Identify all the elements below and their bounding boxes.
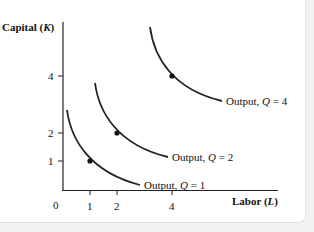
isoquant-q4 bbox=[150, 27, 222, 101]
y-tick-label-4: 4 bbox=[48, 70, 54, 82]
label-q2: Output, Q = 2 bbox=[172, 151, 233, 163]
y-tick-label-2: 2 bbox=[48, 127, 54, 139]
x-axis-title: Labor (L) bbox=[232, 195, 278, 208]
label-q4: Output, Q = 4 bbox=[226, 95, 288, 107]
x-tick-label-1: 1 bbox=[87, 200, 93, 212]
isoquant-diagram: 4 2 1 0 1 2 4 Capital (K) Labor (L) Outp… bbox=[0, 0, 314, 232]
point-q2 bbox=[114, 130, 119, 135]
y-axis-title: Capital (K) bbox=[2, 21, 55, 34]
isoquant-q1 bbox=[67, 110, 140, 185]
x-tick-label-2: 2 bbox=[114, 200, 120, 212]
y-tick-label-1: 1 bbox=[48, 155, 54, 167]
origin-label: 0 bbox=[53, 199, 59, 211]
label-q1: Output, Q = 1 bbox=[144, 179, 205, 191]
isoquant-q2 bbox=[95, 83, 168, 157]
x-tick-label-4: 4 bbox=[169, 200, 175, 212]
point-q4 bbox=[169, 73, 174, 78]
point-q1 bbox=[87, 158, 92, 163]
